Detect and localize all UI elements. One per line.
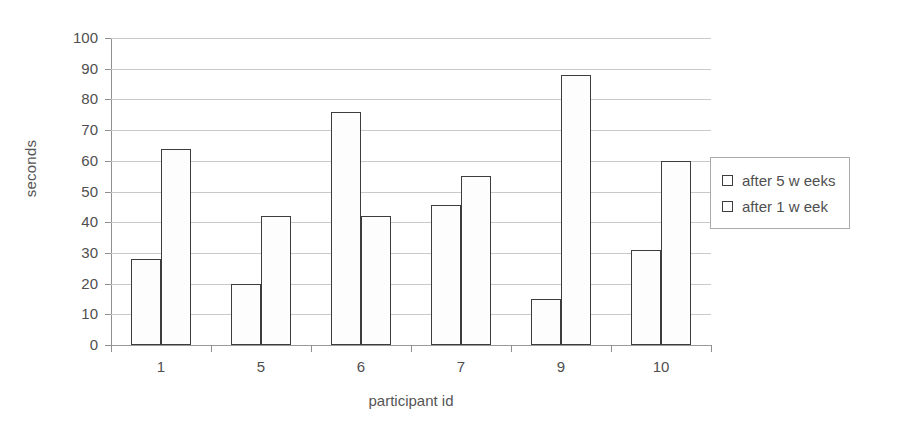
bar: [261, 216, 291, 345]
bar: [561, 75, 591, 345]
gridline: [111, 192, 711, 193]
y-tick-label: 80: [52, 91, 98, 106]
x-tick-label: 10: [631, 358, 691, 375]
gridline: [111, 130, 711, 131]
x-tick-mark: [511, 345, 512, 352]
y-tick-label: 90: [52, 61, 98, 76]
x-tick-label: 5: [231, 358, 291, 375]
x-tick-mark: [311, 345, 312, 352]
legend-entry: after 5 w eeks: [722, 167, 835, 193]
legend-entry: after 1 w eek: [722, 193, 835, 219]
gridline: [111, 38, 711, 39]
bar: [461, 176, 491, 345]
y-tick-label: 20: [52, 276, 98, 291]
bar: [331, 112, 361, 345]
x-tick-label: 9: [531, 358, 591, 375]
gridline: [111, 99, 711, 100]
gridline: [111, 253, 711, 254]
bar: [431, 205, 461, 345]
chart-legend: after 5 w eeksafter 1 w eek: [710, 157, 850, 229]
y-tick-label: 0: [52, 337, 98, 352]
gridline: [111, 161, 711, 162]
legend-swatch-icon: [722, 201, 733, 212]
gridline: [111, 69, 711, 70]
y-tick-label: 10: [52, 306, 98, 321]
gridline: [111, 314, 711, 315]
x-axis-title: participant id: [111, 392, 711, 409]
x-tick-label: 6: [331, 358, 391, 375]
legend-swatch-icon: [722, 175, 733, 186]
bar: [131, 259, 161, 345]
bar: [161, 149, 191, 345]
y-tick-label: 30: [52, 245, 98, 260]
x-tick-label: 1: [131, 358, 191, 375]
bar: [231, 284, 261, 345]
legend-label: after 1 w eek: [742, 198, 828, 215]
gridline: [111, 222, 711, 223]
y-tick-label: 50: [52, 184, 98, 199]
y-tick-label: 100: [52, 30, 98, 45]
x-tick-mark: [611, 345, 612, 352]
bar: [661, 161, 691, 345]
gridline: [111, 284, 711, 285]
y-tick-label: 40: [52, 214, 98, 229]
x-tick-mark: [211, 345, 212, 352]
plot-area: [111, 38, 711, 345]
y-tick-label: 60: [52, 153, 98, 168]
y-axis-title: seconds: [22, 109, 39, 229]
bar-chart-figure: seconds 1009080706050403020100 1567910 p…: [0, 0, 918, 439]
bar: [631, 250, 661, 345]
x-tick-mark: [111, 345, 112, 352]
x-tick-mark: [711, 345, 712, 352]
x-tick-mark: [411, 345, 412, 352]
legend-label: after 5 w eeks: [742, 172, 835, 189]
bar: [361, 216, 391, 345]
x-tick-label: 7: [431, 358, 491, 375]
y-tick-label: 70: [52, 122, 98, 137]
bar: [531, 299, 561, 345]
